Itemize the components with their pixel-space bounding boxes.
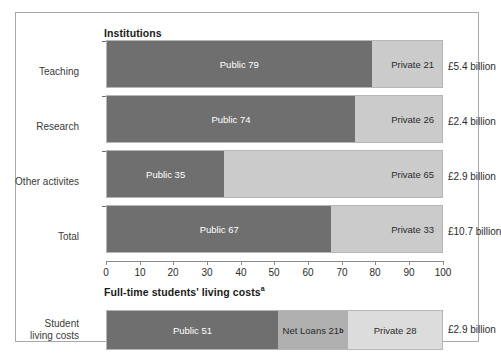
x-tick-label-60: 60 bbox=[302, 267, 313, 278]
x-tick-label-30: 30 bbox=[201, 267, 212, 278]
category-label-total: Total bbox=[0, 231, 79, 243]
bar-segment-public-other-activites[interactable]: Public 35 bbox=[107, 151, 224, 197]
category-label-other-activites: Other activites bbox=[0, 176, 79, 188]
bar-segment-public-student[interactable]: Public 51 bbox=[107, 311, 278, 349]
bar-research[interactable]: Public 74 Private 26 bbox=[106, 95, 443, 143]
bar-segment-public-teaching[interactable]: Public 79 bbox=[107, 41, 372, 87]
category-label-teaching: Teaching bbox=[0, 66, 79, 78]
x-tick-90 bbox=[409, 261, 410, 265]
x-tick-label-0: 0 bbox=[103, 267, 109, 278]
x-tick-0 bbox=[106, 261, 107, 265]
institutions-section-title: Institutions bbox=[104, 27, 162, 39]
value-label-total: £10.7 billion bbox=[448, 226, 501, 237]
x-tick-40 bbox=[241, 261, 242, 265]
bar-segment-net-loans-student[interactable]: Net Loans 21b bbox=[278, 311, 348, 349]
x-tick-label-90: 90 bbox=[403, 267, 414, 278]
category-label-research: Research bbox=[0, 121, 79, 133]
x-tick-label-70: 70 bbox=[336, 267, 347, 278]
bar-segment-private-total[interactable]: Private 33 bbox=[331, 206, 442, 252]
x-tick-label-80: 80 bbox=[369, 267, 380, 278]
value-label-research: £2.4 billion bbox=[448, 116, 496, 127]
value-label-student-living-costs: £2.9 billion bbox=[448, 324, 496, 335]
bar-segment-net-loans-superscript: b bbox=[339, 327, 343, 334]
x-tick-label-100: 100 bbox=[435, 267, 452, 278]
bar-other-activites[interactable]: Public 35 Private 65 bbox=[106, 150, 443, 198]
students-title-superscript: a bbox=[261, 285, 265, 292]
figure-frame: Institutions Teaching Public 79 Private … bbox=[15, 12, 479, 342]
x-tick-10 bbox=[140, 261, 141, 265]
x-tick-80 bbox=[375, 261, 376, 265]
x-tick-label-10: 10 bbox=[134, 267, 145, 278]
bar-segment-public-total[interactable]: Public 67 bbox=[107, 206, 331, 252]
category-label-student-line1: Student bbox=[0, 318, 79, 330]
x-tick-60 bbox=[308, 261, 309, 265]
bar-student-living-costs[interactable]: Public 51 Net Loans 21b Private 28 bbox=[106, 310, 443, 350]
x-tick-30 bbox=[207, 261, 208, 265]
bar-teaching[interactable]: Public 79 Private 21 bbox=[106, 40, 443, 88]
x-tick-70 bbox=[342, 261, 343, 265]
bar-segment-private-other-activites[interactable]: Private 65 bbox=[224, 151, 442, 197]
bar-segment-private-teaching[interactable]: Private 21 bbox=[372, 41, 442, 87]
bar-segment-private-research[interactable]: Private 26 bbox=[355, 96, 442, 142]
x-tick-20 bbox=[173, 261, 174, 265]
x-tick-50 bbox=[274, 261, 275, 265]
category-label-student-living-costs: Student living costs bbox=[0, 318, 79, 342]
bar-segment-net-loans-label: Net Loans 21 bbox=[283, 325, 340, 336]
x-tick-label-40: 40 bbox=[235, 267, 246, 278]
value-label-other-activites: £2.9 billion bbox=[448, 171, 496, 182]
value-label-teaching: £5.4 billion bbox=[448, 61, 496, 72]
bar-segment-private-student[interactable]: Private 28 bbox=[348, 311, 442, 349]
x-tick-label-20: 20 bbox=[167, 267, 178, 278]
bar-total[interactable]: Public 67 Private 33 bbox=[106, 205, 443, 253]
students-section-title: Full-time students' living costsa bbox=[104, 285, 265, 298]
institutions-title-text: Institutions bbox=[104, 27, 162, 39]
x-tick-label-50: 50 bbox=[268, 267, 279, 278]
students-title-text: Full-time students' living costs bbox=[104, 286, 261, 298]
bar-segment-public-research[interactable]: Public 74 bbox=[107, 96, 355, 142]
x-tick-100 bbox=[443, 261, 444, 265]
category-label-student-line2: living costs bbox=[0, 330, 79, 342]
